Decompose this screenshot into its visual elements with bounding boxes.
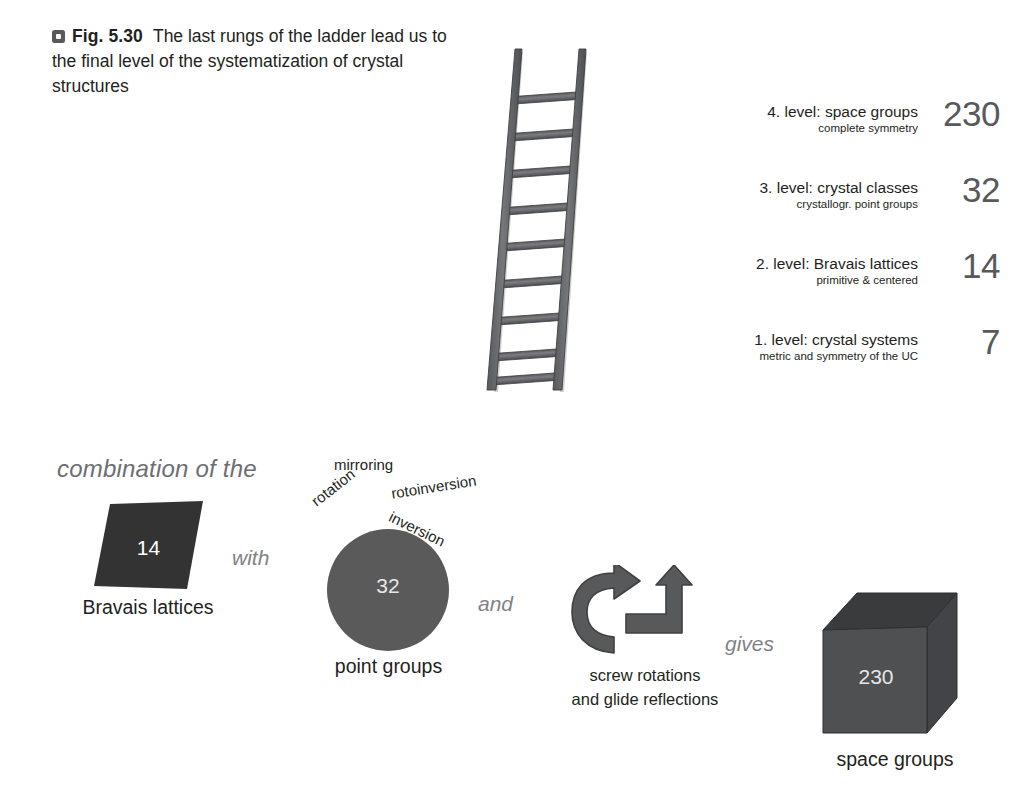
level-subtitle: primitive & centered [658,274,918,286]
symmetry-operation-arrows [570,565,720,660]
bravais-lattices-label: Bravais lattices [48,596,248,619]
bravais-value: 14 [86,536,211,560]
space-groups-label: space groups [795,748,995,771]
level-subtitle: metric and symmetry of the UC [658,350,918,362]
glide-reflection-arrow-icon [626,565,692,633]
screw-glide-label: screw rotations and glide reflections [545,664,745,712]
space-groups-value: 230 [826,665,926,689]
figure-caption: Fig. 5.30The last rungs of the ladder le… [52,24,452,99]
figure-number: Fig. 5.30 [72,26,143,46]
level-count: 14 [928,246,1000,286]
screw-glide-line-2: and glide reflections [545,688,745,712]
symmetry-op-rotation: rotation [308,465,358,509]
point-groups-label: point groups [296,655,481,678]
level-title: 1. level: crystal systems [658,331,918,349]
connector-gives: gives [725,632,774,656]
point-groups-value: 32 [327,574,449,598]
level-title: 4. level: space groups [658,103,918,121]
connector-with: with [232,546,269,570]
square-marker-icon [52,30,65,43]
level-subtitle: complete symmetry [658,122,918,134]
figure-canvas: Fig. 5.30The last rungs of the ladder le… [0,0,1020,798]
cube-icon [815,585,965,740]
level-count: 32 [928,170,1000,210]
ladder-icon [465,30,605,410]
level-count: 230 [928,94,1000,134]
screw-glide-line-1: screw rotations [545,664,745,688]
curved-rotation-arrow-icon [572,565,640,653]
level-count: 7 [928,322,1000,362]
circle-icon: 32 [327,529,449,651]
symmetry-op-rotoinversion: rotoinversion [390,472,477,502]
level-subtitle: crystallogr. point groups [658,198,918,210]
level-title: 3. level: crystal classes [658,179,918,197]
parallelogram-icon: 14 [86,500,211,592]
flow-intro-text: combination of the [57,455,257,483]
connector-and: and [478,592,513,616]
level-title: 2. level: Bravais lattices [658,255,918,273]
